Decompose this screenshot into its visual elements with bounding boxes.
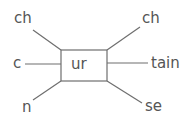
prefix-bottom-left: n <box>22 100 32 115</box>
line-bottom-left <box>33 81 61 100</box>
prefix-top-left: ch <box>14 11 32 26</box>
line-top-right <box>107 27 140 50</box>
prefix-middle-left: c <box>13 56 21 71</box>
line-bottom-right <box>107 81 142 103</box>
word-building-diagram: ur ch c n ch tain se <box>0 0 187 123</box>
suffix-bottom-right: se <box>145 99 162 114</box>
line-top-left <box>33 30 61 50</box>
suffix-top-right: ch <box>142 11 160 26</box>
center-syllable: ur <box>71 57 87 72</box>
suffix-middle-right: tain <box>151 56 180 71</box>
